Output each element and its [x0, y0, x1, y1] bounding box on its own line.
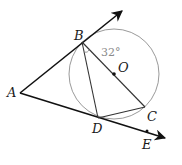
label-b: B	[73, 28, 84, 43]
angle-arc-b	[85, 50, 90, 53]
label-e: E	[141, 137, 152, 152]
point-o	[112, 72, 116, 76]
label-d: D	[91, 121, 103, 136]
label-c: C	[147, 109, 157, 124]
label-a: A	[6, 85, 16, 100]
point-e	[146, 130, 149, 133]
segment-bd	[82, 42, 98, 118]
geometry-diagram: A B O C D E 32°	[0, 0, 182, 165]
angle-label: 32°	[101, 46, 121, 59]
label-o: O	[118, 60, 129, 75]
